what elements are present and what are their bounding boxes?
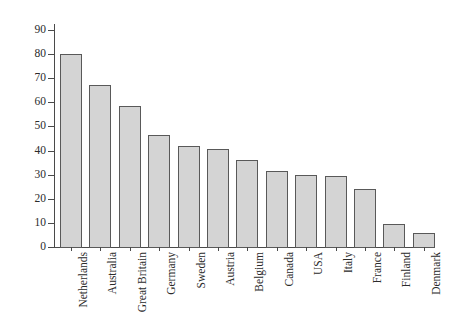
x-axis-label: Denmark: [429, 252, 443, 330]
y-tick-label-wrap: 30: [14, 169, 46, 181]
y-tick-label: 60: [16, 96, 46, 108]
y-tick-70: [48, 78, 54, 79]
y-tick-label-wrap: 40: [14, 145, 46, 157]
y-tick-80: [48, 54, 54, 55]
bar: [383, 224, 405, 248]
y-tick-50: [48, 126, 54, 127]
x-tick: [159, 247, 160, 251]
y-tick-40: [48, 151, 54, 152]
x-tick: [306, 247, 307, 251]
x-axis-label: Australia: [105, 252, 119, 330]
x-axis-label: Great Britain: [135, 252, 149, 330]
y-tick-label-wrap: 10: [14, 217, 46, 229]
x-tick: [247, 247, 248, 251]
y-tick-label: 40: [16, 145, 46, 157]
y-tick-label-wrap: 90: [14, 24, 46, 36]
y-tick-label-wrap: 20: [14, 193, 46, 205]
y-tick-30: [48, 175, 54, 176]
x-axis-label: Canada: [282, 252, 296, 330]
bar: [354, 189, 376, 248]
x-axis-label: Belgium: [252, 252, 266, 330]
x-tick: [277, 247, 278, 251]
y-tick-label-wrap: 70: [14, 72, 46, 84]
x-axis-label: Finland: [399, 252, 413, 330]
y-tick-90: [48, 30, 54, 31]
y-tick-label: 10: [16, 217, 46, 229]
y-tick-label: 70: [16, 72, 46, 84]
y-tick-label: 30: [16, 169, 46, 181]
bar: [325, 176, 347, 248]
bar: [178, 146, 200, 248]
bar: [295, 175, 317, 248]
y-tick-label: 50: [16, 120, 46, 132]
x-axis-label: Netherlands: [76, 252, 90, 330]
bar-chart: 0102030405060708090 NetherlandsAustralia…: [0, 0, 460, 330]
x-tick: [189, 247, 190, 251]
x-tick: [424, 247, 425, 251]
x-tick: [365, 247, 366, 251]
x-tick: [336, 247, 337, 251]
plot-area: 0102030405060708090 NetherlandsAustralia…: [0, 0, 460, 330]
bar: [148, 135, 170, 248]
y-tick-label: 0: [16, 241, 46, 253]
x-tick: [130, 247, 131, 251]
x-tick: [100, 247, 101, 251]
y-tick-label: 20: [16, 193, 46, 205]
bar: [266, 171, 288, 248]
y-tick-label-wrap: 80: [14, 48, 46, 60]
x-axis-label: Austria: [223, 252, 237, 330]
bar: [413, 233, 435, 248]
x-axis-label: Italy: [341, 252, 355, 330]
x-axis-label: Sweden: [194, 252, 208, 330]
y-tick-label-wrap: 0: [14, 241, 46, 253]
x-tick: [218, 247, 219, 251]
y-tick-label: 80: [16, 48, 46, 60]
x-tick: [71, 247, 72, 251]
x-tick: [394, 247, 395, 251]
y-tick-0: [48, 247, 54, 248]
bar: [207, 149, 229, 248]
y-tick-label-wrap: 60: [14, 96, 46, 108]
bar: [89, 85, 111, 248]
bar: [119, 106, 141, 248]
y-tick-20: [48, 199, 54, 200]
y-tick-label: 90: [16, 24, 46, 36]
y-axis-line: [54, 24, 55, 248]
x-axis-label: France: [370, 252, 384, 330]
y-tick-10: [48, 223, 54, 224]
bar: [60, 54, 82, 248]
x-axis-label: Germany: [164, 252, 178, 330]
y-tick-60: [48, 102, 54, 103]
x-axis-label: USA: [311, 252, 325, 330]
bar: [236, 160, 258, 248]
y-tick-label-wrap: 50: [14, 120, 46, 132]
